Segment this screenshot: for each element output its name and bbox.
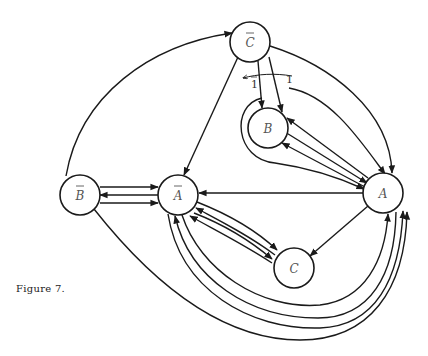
edge-cbar-to-b-right	[269, 57, 282, 112]
svg-text:A: A	[378, 187, 388, 201]
svg-text:C: C	[245, 36, 254, 50]
edge-a-to-b-2	[282, 143, 365, 187]
edge-a-to-c	[310, 206, 368, 256]
figure-7-diagram: 1 1 C B B A A C Figure 7.	[0, 0, 428, 356]
edge-c-to-abar-1	[196, 208, 275, 255]
node-b: B	[248, 108, 288, 148]
edge-c-to-abar-2	[190, 216, 272, 263]
edge-labels: 1 1	[251, 73, 293, 91]
edge-a-to-b-1	[287, 118, 368, 178]
node-a-bar: A	[158, 175, 198, 215]
svg-text:B: B	[263, 122, 273, 136]
label-one: 1	[286, 73, 293, 86]
edge-b-to-a	[285, 132, 367, 183]
node-b-bar: B	[60, 175, 100, 215]
figure-caption: Figure 7.	[16, 283, 65, 294]
label-one-bar: 1	[251, 78, 258, 91]
edge-cbar-to-b-left	[258, 61, 262, 108]
svg-text:A: A	[173, 189, 183, 203]
edge-bbar-to-cbar	[66, 33, 232, 176]
state-graph: 1 1 C B B A A C	[0, 0, 428, 356]
svg-text:C: C	[289, 262, 298, 276]
node-c-bar: C	[230, 22, 270, 62]
node-c: C	[274, 248, 314, 288]
node-a: A	[363, 173, 403, 213]
svg-text:B: B	[75, 189, 85, 203]
edge-cbar-to-abar	[184, 57, 238, 175]
edges	[66, 33, 407, 340]
